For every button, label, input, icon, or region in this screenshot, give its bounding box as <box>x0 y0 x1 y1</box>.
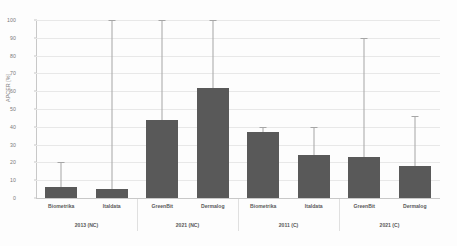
group-separator <box>238 199 239 231</box>
bar[interactable] <box>96 189 128 198</box>
bar-slot <box>36 20 87 198</box>
error-bar-cap <box>361 38 368 39</box>
category-label: GreenBit <box>353 203 375 209</box>
group-label: 2013 (NC) <box>75 222 99 228</box>
bar-slot <box>188 20 239 198</box>
bar[interactable] <box>348 157 380 198</box>
bar-slot <box>238 20 289 198</box>
category-label: GreenBit <box>151 203 173 209</box>
error-bar-cap <box>310 127 317 128</box>
bar[interactable] <box>146 120 178 198</box>
error-bar-cap <box>159 20 166 21</box>
y-axis-tick-label: 20 <box>0 159 16 165</box>
y-axis-tick-label: 40 <box>0 124 16 130</box>
y-axis-tick-label: 80 <box>0 53 16 59</box>
bar[interactable] <box>298 155 330 198</box>
error-bar <box>414 116 415 166</box>
error-bar <box>364 38 365 157</box>
error-bar-cap <box>58 162 65 163</box>
y-axis-tick-label: 50 <box>0 106 16 112</box>
bar-slot <box>137 20 188 198</box>
chart-container: APCER [%] 0102030405060708090100 Biometr… <box>0 0 457 246</box>
group-separator <box>339 199 340 231</box>
y-axis-tick-label: 30 <box>0 142 16 148</box>
category-label: Biometrika <box>48 203 74 209</box>
category-label: Biometrika <box>250 203 276 209</box>
plot-area <box>36 20 440 198</box>
y-axis-tick-label: 60 <box>0 88 16 94</box>
group-label: 2021 (C) <box>380 222 400 228</box>
group-separator <box>137 199 138 231</box>
error-bar-cap <box>260 127 267 128</box>
y-axis-tick-label: 100 <box>0 17 16 23</box>
group-label: 2021 (NC) <box>176 222 200 228</box>
y-axis-tick-label: 90 <box>0 35 16 41</box>
category-label: Italdata <box>305 203 323 209</box>
error-bar-cap <box>411 116 418 117</box>
error-bar-cap <box>209 20 216 21</box>
error-bar <box>313 127 314 155</box>
bar-slot <box>87 20 138 198</box>
bar[interactable] <box>45 187 77 198</box>
y-axis-tick-label: 70 <box>0 70 16 76</box>
group-label: 2011 (C) <box>279 222 299 228</box>
bar[interactable] <box>197 88 229 198</box>
error-bar-cap <box>108 20 115 21</box>
category-label: Dermalog <box>201 203 225 209</box>
bar[interactable] <box>247 132 279 198</box>
error-bar <box>212 20 213 88</box>
bar-slot <box>289 20 340 198</box>
y-axis-tick-label: 0 <box>0 195 16 201</box>
y-axis-tick-label: 10 <box>0 177 16 183</box>
error-bar <box>61 162 62 187</box>
error-bar <box>162 20 163 120</box>
error-bar <box>111 20 112 189</box>
bar-slot <box>390 20 441 198</box>
category-label: Italdata <box>103 203 121 209</box>
category-label: Dermalog <box>403 203 427 209</box>
bar[interactable] <box>399 166 431 198</box>
bar-slot <box>339 20 390 198</box>
